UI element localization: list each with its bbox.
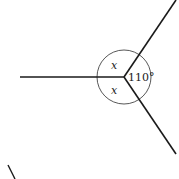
upper-angle-label: x [111, 59, 118, 72]
lower-right-ray [124, 77, 176, 154]
right-angle-label: 110° [128, 71, 155, 84]
upper-right-ray [124, 0, 176, 77]
angles-diagram: x x 110° [0, 0, 179, 179]
lower-angle-label: x [111, 84, 118, 97]
stray-line-fragment [8, 165, 15, 179]
